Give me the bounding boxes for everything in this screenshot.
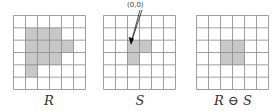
label-r: R xyxy=(9,93,89,108)
label-s: S xyxy=(100,93,180,108)
label-erosion: R ⊖ S xyxy=(193,93,273,108)
origin-label: (0,0) xyxy=(127,1,144,9)
